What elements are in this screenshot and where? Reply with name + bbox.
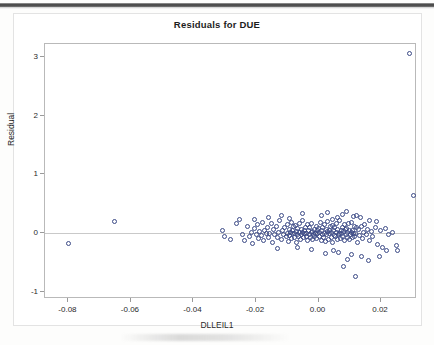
data-point — [364, 232, 369, 237]
data-point — [319, 213, 324, 218]
data-point — [374, 219, 379, 224]
data-point — [395, 248, 400, 253]
data-point — [240, 232, 245, 237]
data-point — [245, 224, 250, 229]
data-point — [335, 215, 340, 220]
data-point — [270, 240, 275, 245]
data-point — [260, 220, 265, 225]
data-point — [309, 247, 314, 252]
data-point — [394, 243, 399, 248]
data-point — [370, 234, 375, 239]
data-point — [112, 219, 117, 224]
data-point — [366, 258, 371, 263]
data-point — [367, 218, 372, 223]
x-axis-tick-label: -0.08 — [47, 305, 87, 314]
data-point — [340, 212, 345, 217]
x-axis-tick-mark — [318, 298, 319, 302]
data-point — [252, 217, 257, 222]
data-point — [274, 224, 279, 229]
y-axis-tick-label: 0 — [12, 228, 38, 237]
data-point — [355, 240, 360, 245]
data-point — [66, 241, 71, 246]
data-point — [255, 222, 260, 227]
data-point — [242, 238, 247, 243]
y-axis-tick-label: 1 — [12, 169, 38, 178]
data-point — [279, 237, 284, 242]
data-point — [275, 246, 280, 251]
data-point — [279, 213, 284, 218]
data-point — [300, 211, 305, 216]
data-point — [250, 241, 255, 246]
data-point — [295, 245, 300, 250]
data-point — [237, 217, 242, 222]
data-point — [331, 248, 336, 253]
data-point — [269, 221, 274, 226]
x-axis-tick-label: 0.00 — [298, 305, 338, 314]
x-axis-tick-mark — [67, 298, 68, 302]
x-axis-tick-label: 0.02 — [360, 305, 400, 314]
data-point — [349, 252, 354, 257]
x-axis-tick-mark — [380, 298, 381, 302]
data-point — [287, 216, 292, 221]
x-axis-tick-label: -0.04 — [172, 305, 212, 314]
data-point — [384, 248, 389, 253]
y-axis-tick-label: 3 — [12, 51, 38, 60]
x-axis-tick-mark — [130, 298, 131, 302]
data-point — [407, 51, 412, 56]
data-point — [341, 264, 346, 269]
data-point — [336, 250, 341, 255]
data-point — [360, 236, 365, 241]
data-point — [383, 226, 388, 231]
chart-title: Residuals for DUE — [0, 19, 434, 30]
data-point — [222, 234, 227, 239]
data-point — [359, 254, 364, 259]
x-axis-tick-label: -0.02 — [235, 305, 275, 314]
scan-artifact-line-secondary — [0, 7, 434, 9]
y-axis-tick-label: -1 — [12, 286, 38, 295]
data-point — [377, 254, 382, 259]
data-point — [411, 193, 416, 198]
data-point — [345, 257, 350, 262]
data-point — [390, 230, 395, 235]
y-axis-tick-label: 2 — [12, 110, 38, 119]
x-axis-tick-label: -0.06 — [110, 305, 150, 314]
x-axis-tick-mark — [255, 298, 256, 302]
scatter-plot-area — [44, 43, 416, 298]
data-point — [228, 237, 233, 242]
data-point — [277, 218, 282, 223]
data-point — [323, 251, 328, 256]
scanned-page: Residuals for DUE Residual DLLEIL1 3210-… — [0, 0, 434, 345]
data-point — [325, 210, 330, 215]
data-point — [265, 225, 270, 230]
scan-smudge — [120, 334, 290, 341]
x-axis-tick-mark — [192, 298, 193, 302]
data-point — [353, 274, 358, 279]
data-point — [266, 215, 271, 220]
x-axis-label: DLLEIL1 — [0, 320, 434, 330]
